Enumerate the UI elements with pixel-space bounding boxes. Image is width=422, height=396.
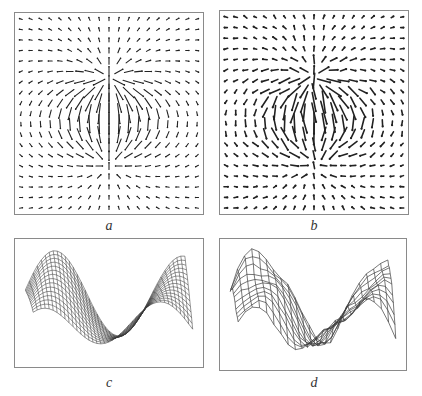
caption-d: d (299, 375, 329, 391)
vector-field-plot (220, 11, 408, 214)
mesh-surface-plot (220, 239, 406, 370)
vector-field-plot (15, 13, 203, 214)
panel-c-mesh-surface (14, 238, 204, 368)
mesh-surface-plot (15, 239, 203, 367)
caption-a: a (94, 218, 124, 234)
caption-b: b (299, 218, 329, 234)
panel-a-vector-field (14, 12, 204, 215)
panel-d-mesh-surface (219, 238, 407, 371)
panel-b-vector-field (219, 10, 409, 215)
caption-c: c (94, 375, 124, 391)
